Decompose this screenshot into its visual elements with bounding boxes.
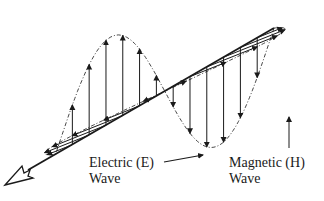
magnetic-field-vector [190,62,226,76]
em-wave-diagram: Electric (E) Wave Magnetic (H) Wave [0,0,324,201]
magnetic-label-line1: Magnetic (H) [229,155,305,171]
electric-pointer-arrow [164,155,203,162]
electric-wave-label: Electric (E) Wave [89,155,154,187]
magnetic-field-vector [72,116,122,136]
magnetic-label-line2: Wave [229,171,305,187]
electric-label-line1: Electric (E) [89,155,154,171]
magnetic-field-vector [240,30,284,48]
magnetic-field-vector [224,36,278,57]
magnetic-field-vector [52,125,106,146]
electric-label-line2: Wave [89,171,154,187]
magnetic-wave-label: Magnetic (H) Wave [229,155,305,187]
magnetic-field-vector [207,47,257,67]
